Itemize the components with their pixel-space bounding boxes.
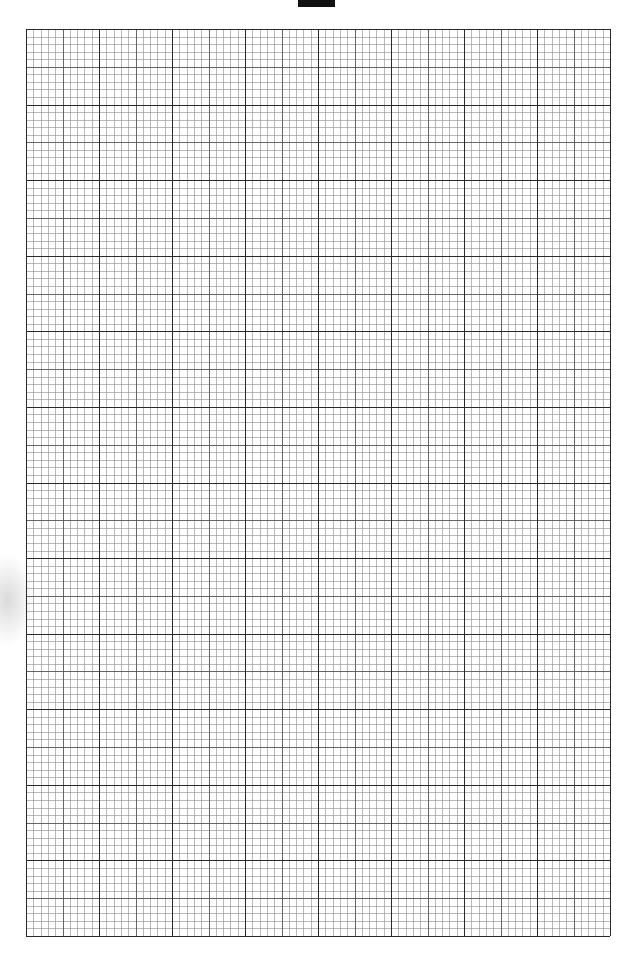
graph-paper-grid <box>0 0 638 973</box>
